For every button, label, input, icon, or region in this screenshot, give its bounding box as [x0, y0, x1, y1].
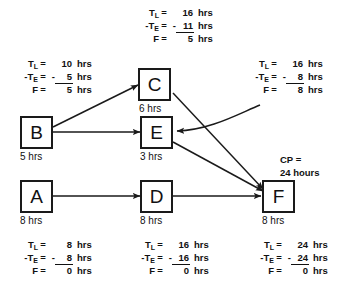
calc-te-equals: = [269, 70, 279, 83]
calc-row-te: -TE = - 11 hrs [133, 19, 213, 32]
calc-f-unit: hrs [309, 264, 328, 277]
node-f[interactable]: F [262, 180, 295, 213]
calc-f-equals: = [159, 32, 169, 45]
calc-te-sign: - [48, 70, 55, 83]
node-e[interactable]: E [140, 116, 173, 149]
calc-block-f: TL = 24 hrs -TE = - 24 hrs F = 0 hrs [248, 238, 328, 277]
calc-f-unit: hrs [73, 264, 92, 277]
calc-f-value: 0 [291, 264, 309, 277]
calc-f-label: F [243, 83, 269, 96]
calc-tl-value: 8 [55, 238, 73, 251]
calc-te-sign: - [284, 251, 291, 264]
node-b[interactable]: B [20, 116, 53, 149]
calc-row-f: F = 5 hrs [12, 83, 92, 96]
calc-te-unit: hrs [309, 251, 328, 264]
calc-tl-unit: hrs [73, 57, 92, 70]
calc-row-f: F = 0 hrs [12, 264, 92, 277]
calc-f-unit: hrs [194, 32, 213, 45]
calc-tl-equals: = [38, 57, 48, 70]
node-e-duration: 3 hrs [140, 152, 162, 162]
calc-f-value: 5 [176, 32, 194, 45]
calc-tl-equals: = [38, 238, 48, 251]
calc-tl-equals: = [159, 6, 169, 19]
calc-row-tl: TL = 16 hrs [129, 238, 209, 251]
critical-path-label: CP = [280, 153, 320, 166]
calc-te-unit: hrs [73, 251, 92, 264]
calc-f-label: F [129, 264, 155, 277]
calc-te-label: -TE [12, 251, 38, 265]
calc-te-sign: - [165, 251, 172, 264]
calc-te-label: -TE [129, 251, 155, 265]
calc-block-e: TL = 16 hrs -TE = - 8 hrs F = 8 hrs [243, 57, 323, 96]
calc-f-equals: = [38, 83, 48, 96]
calc-f-label: F [12, 83, 38, 96]
edge-e-to-f [173, 142, 263, 191]
critical-path-value: 24 hours [280, 166, 320, 179]
calc-te-value: 16 [172, 251, 190, 265]
callout-leader-to-e [177, 105, 260, 131]
node-d-duration: 8 hrs [140, 216, 162, 226]
calc-te-equals: = [38, 251, 48, 264]
calc-f-equals: = [274, 264, 284, 277]
calc-tl-value: 24 [291, 238, 309, 251]
calc-row-tl: TL = 16 hrs [243, 57, 323, 70]
calc-te-sign: - [279, 70, 286, 83]
node-c-duration: 6 hrs [139, 104, 161, 114]
calc-f-unit: hrs [304, 83, 323, 96]
calc-te-value: 5 [55, 70, 73, 84]
calc-te-value: 11 [176, 19, 194, 33]
calc-row-f: F = 0 hrs [129, 264, 209, 277]
node-c[interactable]: C [138, 68, 171, 101]
calc-f-equals: = [269, 83, 279, 96]
edge-c-to-f [173, 93, 263, 189]
calc-tl-label: TL [243, 57, 269, 71]
calc-row-te: -TE = - 8 hrs [243, 70, 323, 83]
calc-tl-label: TL [12, 238, 38, 252]
calc-te-sign: - [48, 251, 55, 264]
node-d[interactable]: D [140, 180, 173, 213]
node-a-duration: 8 hrs [20, 216, 42, 226]
calc-f-value: 8 [286, 83, 304, 96]
calc-row-te: -TE = - 16 hrs [129, 251, 209, 264]
calc-tl-label: TL [248, 238, 274, 252]
calc-te-unit: hrs [73, 70, 92, 83]
node-a[interactable]: A [20, 180, 53, 213]
calc-tl-label: TL [12, 57, 38, 71]
calc-te-value: 24 [291, 251, 309, 265]
calc-te-value: 8 [286, 70, 304, 84]
calc-te-unit: hrs [190, 251, 209, 264]
calc-tl-unit: hrs [309, 238, 328, 251]
node-f-duration: 8 hrs [262, 216, 284, 226]
calc-f-equals: = [38, 264, 48, 277]
calc-block-b: TL = 10 hrs -TE = - 5 hrs F = 5 hrs [12, 57, 92, 96]
calc-te-label: -TE [12, 70, 38, 84]
calc-te-label: -TE [243, 70, 269, 84]
calc-row-te: -TE = - 24 hrs [248, 251, 328, 264]
calc-tl-unit: hrs [190, 238, 209, 251]
calc-te-label: -TE [133, 19, 159, 33]
calc-te-value: 8 [55, 251, 73, 265]
calc-row-tl: TL = 8 hrs [12, 238, 92, 251]
calc-tl-equals: = [155, 238, 165, 251]
calc-tl-equals: = [269, 57, 279, 70]
calc-tl-value: 16 [286, 57, 304, 70]
calc-te-equals: = [159, 19, 169, 32]
calc-f-equals: = [155, 264, 165, 277]
calc-f-label: F [133, 32, 159, 45]
calc-f-unit: hrs [190, 264, 209, 277]
calc-tl-label: TL [133, 6, 159, 20]
calc-tl-value: 16 [172, 238, 190, 251]
calc-f-unit: hrs [73, 83, 92, 96]
calc-row-f: F = 0 hrs [248, 264, 328, 277]
calc-block-c: TL = 16 hrs -TE = - 11 hrs F = 5 hrs [133, 6, 213, 45]
calc-te-sign: - [169, 19, 176, 32]
calc-tl-value: 10 [55, 57, 73, 70]
calc-row-te: -TE = - 8 hrs [12, 251, 92, 264]
calc-te-unit: hrs [194, 19, 213, 32]
node-b-duration: 5 hrs [20, 152, 42, 162]
network-diagram-canvas: C 6 hrs B 5 hrs E 3 hrs A 8 hrs D 8 hrs … [0, 0, 345, 286]
calc-block-d: TL = 16 hrs -TE = - 16 hrs F = 0 hrs [129, 238, 209, 277]
calc-te-unit: hrs [304, 70, 323, 83]
calc-te-equals: = [38, 70, 48, 83]
calc-tl-unit: hrs [304, 57, 323, 70]
